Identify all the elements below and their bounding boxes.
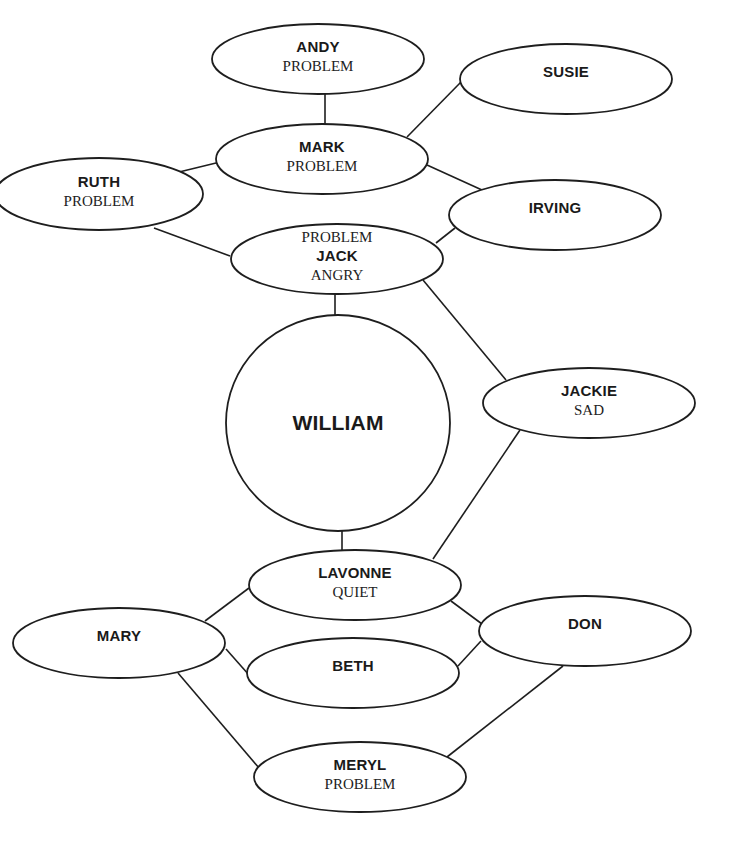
- node-name: JACK: [316, 247, 358, 264]
- edge-lavonne-mary: [205, 588, 249, 621]
- node-label: PROBLEM: [64, 193, 135, 209]
- node-label: PROBLEM: [302, 229, 373, 245]
- node-name: ANDY: [296, 38, 339, 55]
- edge-jack-jackie: [423, 280, 506, 380]
- node-name: BETH: [332, 657, 374, 674]
- node-andy: ANDYPROBLEM: [212, 24, 424, 94]
- edge-don-meryl: [447, 666, 563, 757]
- node-label: QUIET: [333, 584, 378, 600]
- node-name: JACKIE: [561, 382, 617, 399]
- relationship-diagram: ANDYPROBLEMSUSIEMARKPROBLEMRUTHPROBLEMIR…: [0, 0, 729, 842]
- node-mary: MARY: [13, 608, 225, 678]
- edge-mark-susie: [407, 82, 461, 137]
- node-name: DON: [568, 615, 602, 632]
- edge-mary-beth: [226, 649, 249, 675]
- node-jackie: JACKIESAD: [483, 368, 695, 438]
- node-label: SAD: [574, 402, 604, 418]
- edge-mary-meryl: [178, 673, 259, 768]
- node-lavonne: LAVONNEQUIET: [249, 550, 461, 620]
- nodes-layer: ANDYPROBLEMSUSIEMARKPROBLEMRUTHPROBLEMIR…: [0, 24, 695, 812]
- node-irving: IRVING: [449, 180, 661, 250]
- node-mark: MARKPROBLEM: [216, 124, 428, 194]
- node-susie: SUSIE: [460, 44, 672, 114]
- node-label: PROBLEM: [283, 58, 354, 74]
- node-label: ANGRY: [311, 267, 364, 283]
- node-name: SUSIE: [543, 63, 589, 80]
- node-name: MARY: [97, 627, 141, 644]
- edge-lavonne-don: [451, 601, 482, 624]
- node-name: WILLIAM: [292, 411, 383, 434]
- node-label: PROBLEM: [325, 776, 396, 792]
- node-don: DON: [479, 596, 691, 666]
- node-name: MARK: [299, 138, 345, 155]
- edge-beth-don: [458, 641, 481, 666]
- edge-jack-irving: [436, 228, 455, 243]
- edge-ruth-jack: [154, 228, 230, 256]
- node-jack: PROBLEMJACKANGRY: [231, 224, 443, 294]
- node-william: WILLIAM: [226, 315, 450, 531]
- node-label: PROBLEM: [287, 158, 358, 174]
- node-meryl: MERYLPROBLEM: [254, 742, 466, 812]
- node-name: IRVING: [529, 199, 582, 216]
- node-ruth: RUTHPROBLEM: [0, 158, 203, 230]
- node-beth: BETH: [247, 638, 459, 708]
- edge-mark-irving: [427, 165, 482, 190]
- node-name: MERYL: [334, 756, 387, 773]
- node-name: RUTH: [78, 173, 120, 190]
- node-name: LAVONNE: [318, 564, 392, 581]
